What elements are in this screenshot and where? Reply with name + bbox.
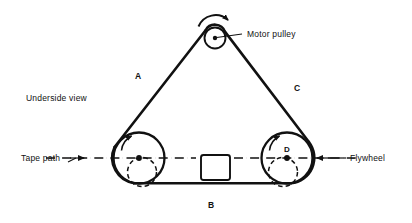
callout-leaders: [68, 34, 346, 162]
flywheel-node-label: D: [284, 145, 290, 154]
capstan-block-body: [201, 155, 230, 180]
belt-segment-b-label: B: [208, 200, 214, 210]
belt-segment-c-label: C: [294, 83, 300, 93]
belt-drive-diagram: D Underside view Tape path Motor pulley …: [0, 0, 412, 223]
capstan-block: [201, 155, 230, 180]
left-pulley-center-dot: [136, 155, 142, 161]
underside-view-label: Underside view: [26, 93, 88, 103]
belt-segment-a: [115, 30, 206, 147]
belt-segment-a-label: A: [135, 71, 141, 81]
flywheel-center-dot: [284, 155, 290, 161]
motor-pulley-label: Motor pulley: [247, 29, 296, 39]
flywheel-label: Flywheel: [350, 153, 385, 163]
diagram-canvas: D Underside view Tape path Motor pulley …: [0, 0, 412, 223]
tape-path-label: Tape path: [21, 153, 60, 163]
